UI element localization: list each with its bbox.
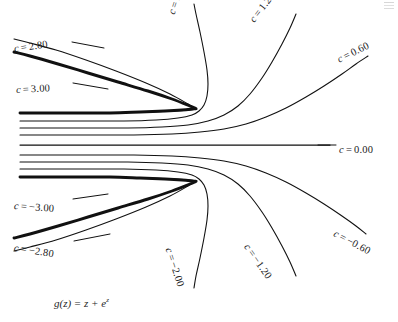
contour-curve: [14, 177, 197, 251]
figure-page: c=2.80 c=3.00 c=2.00 c=1.20 c=0.60 c=0.0…: [0, 0, 398, 322]
contour-plot-canvas: [0, 0, 398, 322]
contour-label-value: 0.00: [354, 144, 373, 155]
contour-label-value: −3.00: [29, 201, 55, 214]
contour-label-c-3.00: c=3.00: [16, 83, 51, 95]
caption-exponent: z: [106, 296, 109, 304]
contour-label-value: 2.80: [28, 38, 49, 52]
contour-curves: [14, 4, 368, 288]
contour-label-equals: =: [21, 83, 32, 95]
leader-c-neg-2-80: [74, 234, 110, 241]
page-edge-artifact: [384, 2, 394, 11]
caption-text: g(z) = z + e: [54, 297, 106, 309]
leader-c-2-80: [72, 42, 104, 48]
figure-caption: g(z) = z + ez: [54, 296, 109, 309]
contour-label-c-0.00: c=0.00: [339, 145, 373, 156]
leader-c-3-00: [73, 83, 108, 89]
contour-label-equals: =: [344, 144, 354, 155]
contour-label-value: 3.00: [31, 82, 51, 94]
leader-c-neg-3-00: [73, 194, 108, 199]
